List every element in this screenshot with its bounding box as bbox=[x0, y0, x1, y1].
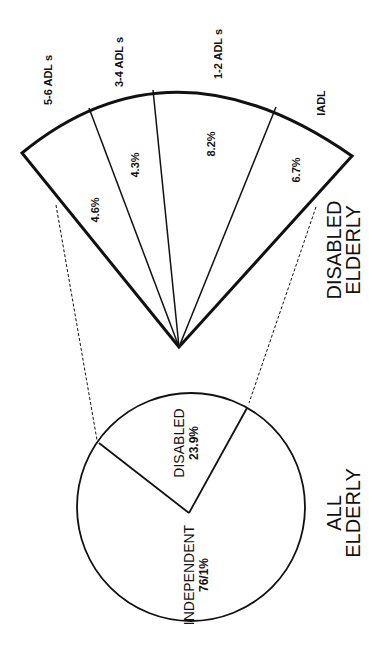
disability-breakdown-chart: 4.6% 4.3% 8.2% 6.7% 5-6 ADL s 3-4 ADL s … bbox=[0, 0, 369, 652]
fan-value-1-2: 8.2% bbox=[205, 131, 217, 156]
pie-disabled-label: DISABLED bbox=[171, 408, 187, 477]
fan-label-iadl: IADL bbox=[315, 90, 327, 116]
fan-value-5-6: 4.6% bbox=[89, 197, 101, 222]
pie-title-line2: ELDERLY bbox=[342, 468, 364, 558]
pie-disabled-value: 23.9% bbox=[187, 426, 201, 460]
fan-value-3-4: 4.3% bbox=[129, 152, 141, 177]
fan-outline bbox=[22, 92, 352, 347]
fan-value-iadl: 6.7% bbox=[290, 157, 302, 182]
disabled-elderly-fan: 4.6% 4.3% 8.2% 6.7% 5-6 ADL s 3-4 ADL s … bbox=[22, 29, 364, 347]
fan-label-1-2: 1-2 ADL s bbox=[212, 29, 224, 79]
fan-label-3-4: 3-4 ADL s bbox=[113, 37, 125, 87]
fan-title-line2: ELDERLY bbox=[342, 205, 364, 295]
pie-independent-value: 76/1% bbox=[197, 558, 211, 592]
fan-label-5-6: 5-6 ADL s bbox=[42, 55, 54, 105]
pie-independent-label: INDEPENDENT bbox=[181, 524, 197, 625]
all-elderly-pie: DISABLED 23.9% INDEPENDENT 76/1% ALL ELD… bbox=[77, 393, 364, 625]
